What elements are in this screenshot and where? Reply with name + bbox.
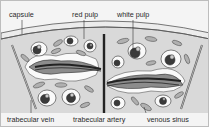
label-trabecular-vein: trabecular vein [7, 116, 54, 123]
label-capsule: capsule [9, 11, 34, 18]
spleen-illustration [1, 1, 209, 127]
label-trabecular-artery: trabecular artery [73, 116, 125, 123]
label-white-pulp: white pulp [117, 11, 149, 18]
white-pulp-left [25, 53, 101, 81]
label-red-pulp: red pulp [72, 11, 98, 18]
label-venous-sinus: venous sinus [147, 116, 189, 123]
spleen-diagram: capsule red pulp white pulp trabecular v… [0, 0, 209, 127]
